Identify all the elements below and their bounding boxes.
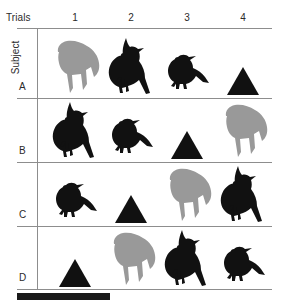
column-header-2: 2 [116, 12, 146, 23]
cell-c-4 [215, 162, 271, 224]
cell-b-1 [47, 98, 103, 160]
black-sparrow-silhouette-icon [108, 114, 154, 160]
rule-bottom [17, 289, 272, 290]
rule-header [17, 28, 272, 29]
black-triangle-icon [114, 194, 148, 224]
black-sparrow-silhouette-icon [220, 242, 266, 288]
cell-a-1 [47, 34, 103, 96]
cell-b-3 [159, 98, 215, 160]
cell-a-3 [159, 34, 215, 96]
cell-a-4 [215, 34, 271, 96]
gray-parrot-silhouette-icon [217, 100, 269, 160]
gray-parrot-silhouette-icon [161, 164, 213, 224]
cell-c-1 [47, 162, 103, 224]
row-header-b: B [19, 145, 35, 156]
row-header-d: D [19, 272, 35, 283]
row-header-c: C [19, 209, 35, 220]
black-triangle-icon [58, 258, 92, 288]
cell-c-2 [103, 162, 159, 224]
black-sparrow-silhouette-icon [52, 178, 98, 224]
black-triangle-icon [170, 130, 204, 160]
cell-a-2 [103, 34, 159, 96]
gray-parrot-silhouette-icon [49, 36, 101, 96]
rule-vertical-divider [37, 28, 38, 290]
black-cardinal-silhouette-icon [162, 228, 212, 288]
cell-d-4 [215, 226, 271, 288]
stimulus-sequence-figure: Trials Subject 1 2 3 4 A B C D [0, 0, 282, 305]
cell-b-4 [215, 98, 271, 160]
columns-axis-title: Trials [6, 12, 31, 23]
black-cardinal-silhouette-icon [106, 36, 156, 96]
column-header-4: 4 [228, 12, 258, 23]
black-cardinal-silhouette-icon [218, 164, 268, 224]
cell-d-3 [159, 226, 215, 288]
cell-d-2 [103, 226, 159, 288]
column-header-3: 3 [172, 12, 202, 23]
black-sparrow-silhouette-icon [164, 50, 210, 96]
rows-axis-title: Subject [10, 27, 21, 89]
cell-b-2 [103, 98, 159, 160]
gray-parrot-silhouette-icon [105, 228, 157, 288]
black-cardinal-silhouette-icon [50, 100, 100, 160]
column-header-1: 1 [60, 12, 90, 23]
cell-d-1 [47, 226, 103, 288]
cell-c-3 [159, 162, 215, 224]
black-triangle-icon [226, 66, 260, 96]
scale-bar [17, 293, 110, 300]
row-header-a: A [19, 81, 35, 92]
